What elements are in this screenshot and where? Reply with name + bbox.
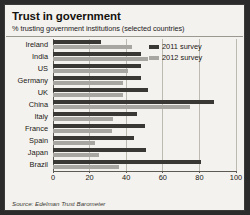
- bar-spain-2012: [53, 141, 95, 145]
- legend-swatch-icon: [149, 56, 159, 60]
- category-label: US: [38, 65, 48, 73]
- bar-france-2011: [53, 124, 145, 128]
- bar-group: [53, 136, 236, 148]
- bar-germany-2011: [53, 76, 141, 80]
- bar-group: [53, 148, 236, 160]
- bar-group: [53, 112, 236, 124]
- axis-tick-label: 100: [230, 173, 242, 182]
- bar-group: [53, 100, 236, 112]
- category-label: Italy: [34, 113, 48, 121]
- header-divider: [6, 36, 243, 37]
- bar-us-2012: [53, 69, 128, 73]
- bar-india-2011: [53, 52, 141, 56]
- chart-figure: Trust in government % trusting governmen…: [0, 0, 250, 215]
- category-label: Germany: [18, 77, 48, 85]
- bar-group: [53, 88, 236, 100]
- axis-tick-label: 40: [122, 173, 130, 182]
- bar-group: [53, 52, 236, 64]
- bar-italy-2012: [53, 117, 113, 121]
- bar-group: [53, 124, 236, 136]
- bar-china-2011: [53, 100, 214, 104]
- chart-panel: Trust in government % trusting governmen…: [4, 4, 245, 211]
- bar-group: [53, 64, 236, 76]
- bar-japan-2011: [53, 148, 146, 152]
- chart-subtitle: % trusting government institutions (sele…: [12, 24, 238, 34]
- bar-uk-2012: [53, 93, 123, 97]
- bar-group: [53, 40, 236, 52]
- bar-japan-2012: [53, 153, 99, 157]
- category-label: Ireland: [25, 41, 48, 49]
- chart-legend: 2011 survey2012 survey: [149, 41, 202, 63]
- bar-uk-2011: [53, 88, 148, 92]
- legend-label: 2012 survey: [162, 53, 202, 62]
- axis-tick-label: 0: [51, 173, 55, 182]
- category-axis-labels: IrelandIndiaUSGermanyUKChinaItalyFranceS…: [11, 39, 51, 171]
- axis-tick-label: 20: [85, 173, 93, 182]
- bar-brazil-2012: [53, 165, 119, 169]
- category-label: Japan: [28, 149, 48, 157]
- chart-header: Trust in government % trusting governmen…: [5, 5, 244, 34]
- axis-tick-label: 80: [195, 173, 203, 182]
- bar-group: [53, 76, 236, 88]
- bar-france-2012: [53, 129, 112, 133]
- chart-title: Trust in government: [12, 10, 238, 23]
- legend-swatch-icon: [149, 45, 159, 49]
- category-label: Brazil: [30, 161, 48, 169]
- bar-us-2011: [53, 64, 141, 68]
- bar-china-2012: [53, 105, 190, 109]
- bar-germany-2012: [53, 81, 123, 85]
- value-axis-line: [53, 171, 236, 172]
- source-note: Source: Edelman Trust Barometer: [12, 200, 105, 207]
- legend-item[interactable]: 2011 survey: [149, 41, 202, 52]
- bar-brazil-2011: [53, 160, 201, 164]
- value-axis: 020406080100: [53, 171, 236, 183]
- legend-label: 2011 survey: [162, 42, 202, 51]
- axis-tick-label: 60: [159, 173, 167, 182]
- bar-italy-2011: [53, 112, 137, 116]
- category-label: France: [25, 125, 48, 133]
- bars-canvas: [53, 39, 236, 171]
- bar-ireland-2011: [53, 40, 101, 44]
- plot-area: IrelandIndiaUSGermanyUKChinaItalyFranceS…: [11, 39, 236, 183]
- legend-item[interactable]: 2012 survey: [149, 52, 202, 63]
- bar-ireland-2012: [53, 45, 132, 49]
- bar-spain-2011: [53, 136, 134, 140]
- bar-india-2012: [53, 57, 148, 61]
- category-label: China: [29, 101, 48, 109]
- category-label: Spain: [29, 137, 48, 145]
- category-label: India: [32, 53, 48, 61]
- category-label: UK: [38, 89, 48, 97]
